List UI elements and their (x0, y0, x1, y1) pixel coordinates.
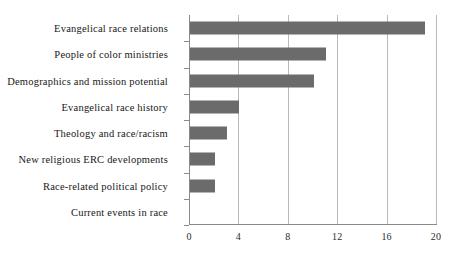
category-label: Evangelical race relations (0, 23, 168, 34)
category-label: Race-related political policy (0, 180, 168, 191)
y-axis-tick (184, 225, 189, 226)
x-axis-line (189, 224, 437, 225)
gridline-12 (337, 15, 338, 225)
gridline-20 (436, 15, 437, 225)
x-tick-label: 20 (431, 231, 441, 242)
x-tick-label: 12 (332, 231, 342, 242)
gridline-16 (387, 15, 388, 225)
category-label: Theology and race/racism (0, 128, 168, 139)
plot-area (189, 15, 436, 225)
bar (190, 22, 425, 35)
y-axis-line (189, 15, 190, 225)
bar (190, 179, 215, 192)
y-axis-tick (184, 120, 189, 121)
y-axis-tick (184, 94, 189, 95)
y-axis-tick (184, 173, 189, 174)
x-axis-tick-labels: 048121620 (189, 231, 437, 251)
category-label: Evangelical race history (0, 101, 168, 112)
y-axis-tick (184, 41, 189, 42)
x-tick-label: 16 (381, 231, 391, 242)
category-axis-labels: Evangelical race relationsPeople of colo… (0, 15, 176, 225)
bar (190, 153, 215, 166)
y-axis-tick (184, 146, 189, 147)
x-tick-label: 0 (186, 231, 191, 242)
y-axis-tick (184, 68, 189, 69)
x-tick-label: 4 (236, 231, 241, 242)
category-label: New religious ERC developments (0, 154, 168, 165)
bar-chart: Evangelical race relationsPeople of colo… (0, 0, 454, 269)
category-label: People of color ministries (0, 49, 168, 60)
category-label: Demographics and mission potential (0, 75, 168, 86)
y-axis-tick (184, 199, 189, 200)
gridline-4 (238, 15, 239, 225)
bar (190, 127, 227, 140)
gridline-8 (288, 15, 289, 225)
bar (190, 48, 326, 61)
x-tick-label: 8 (285, 231, 290, 242)
category-label: Current events in race (0, 206, 168, 217)
bar (190, 100, 239, 113)
bar (190, 74, 314, 87)
